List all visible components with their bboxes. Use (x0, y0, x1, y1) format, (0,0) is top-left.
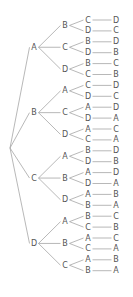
tree-edge (70, 238, 84, 243)
tree-edge (70, 200, 84, 205)
tree-leaf: D (113, 103, 119, 112)
tree-node-level3: C (85, 135, 91, 144)
tree-node-level3: D (85, 92, 91, 101)
tree-leaf: A (113, 201, 119, 210)
tree-leaf: C (113, 125, 119, 134)
tree-node-level3: B (85, 146, 91, 155)
tree-node-level1: B (31, 108, 37, 117)
tree-node-level3: A (85, 168, 91, 177)
tree-leaf: B (113, 70, 119, 79)
tree-edge (70, 260, 84, 265)
tree-edge (70, 243, 84, 248)
permutation-tree-diagram: CDDCBBDDBCBCCBDACDDCAADDACACCADBBDDBAADD… (0, 0, 133, 297)
tree-leaf: C (113, 212, 119, 221)
tree-edge (70, 42, 84, 47)
tree-node-level2: D (62, 130, 68, 139)
tree-node-level3: A (85, 103, 91, 112)
tree-edge (70, 113, 84, 118)
tree-node-level1: C (31, 174, 37, 183)
tree-edge (10, 113, 30, 148)
tree-leaf: A (113, 179, 119, 188)
tree-leaf: C (113, 59, 119, 68)
tree-node-level1: A (31, 43, 37, 52)
tree-leaf: A (113, 266, 119, 275)
tree-edge (39, 25, 61, 47)
tree-node-level3: D (85, 26, 91, 35)
tree-node-level2: C (62, 43, 68, 52)
tree-node-level3: A (85, 125, 91, 134)
tree-edge (70, 20, 84, 25)
tree-node-level3: B (85, 59, 91, 68)
tree-leaf: B (113, 255, 119, 264)
tree-edge (39, 91, 61, 113)
tree-edge (70, 25, 84, 30)
tree-node-level2: A (62, 217, 68, 226)
tree-node-level2: C (62, 108, 68, 117)
tree-node-level3: B (85, 201, 91, 210)
tree-leaf: C (113, 234, 119, 243)
tree-node-level3: D (85, 48, 91, 57)
tree-edge (70, 134, 84, 139)
tree-node-level3: D (85, 114, 91, 123)
tree-leaf: D (113, 168, 119, 177)
tree-node-level2: B (62, 239, 68, 248)
tree-edge (70, 107, 84, 112)
tree-edge (39, 178, 61, 200)
tree-node-level2: D (62, 65, 68, 74)
tree-edge (39, 222, 61, 244)
tree-node-level2: C (62, 261, 68, 270)
tree-leaf: A (113, 244, 119, 253)
tree-edge (70, 91, 84, 96)
tree-edge (70, 85, 84, 90)
tree-edge (70, 151, 84, 156)
tree-node-level3: B (85, 37, 91, 46)
tree-leaf: B (113, 48, 119, 57)
tree-leaf: D (113, 16, 119, 25)
tree-leaf: B (113, 223, 119, 232)
tree-node-level3: A (85, 190, 91, 199)
tree-edge (70, 216, 84, 221)
tree-edge (70, 173, 84, 178)
tree-edge (70, 194, 84, 199)
tree-node-level3: C (85, 16, 91, 25)
tree-leaf: A (113, 135, 119, 144)
tree-leaf: B (113, 190, 119, 199)
tree-node-level2: B (62, 174, 68, 183)
tree-leaf: D (113, 146, 119, 155)
tree-node-level2: D (62, 195, 68, 204)
tree-node-level3: A (85, 255, 91, 264)
tree-leaf: A (113, 114, 119, 123)
tree-leaf: D (113, 37, 119, 46)
tree-edge (70, 129, 84, 134)
tree-leaf: C (113, 92, 119, 101)
tree-node-level3: C (85, 223, 91, 232)
tree-node-level1: D (31, 239, 37, 248)
tree-node-level3: A (85, 234, 91, 243)
tree-node-level3: B (85, 266, 91, 275)
tree-edge (70, 178, 84, 183)
tree-node-level2: A (62, 152, 68, 161)
tree-node-level2: A (62, 86, 68, 95)
tree-node-level3: C (85, 81, 91, 90)
tree-node-level3: C (85, 70, 91, 79)
tree-node-level3: D (85, 179, 91, 188)
tree-edge (39, 113, 61, 135)
tree-node-level3: B (85, 212, 91, 221)
tree-leaf: D (113, 81, 119, 90)
tree-edge (39, 47, 61, 69)
tree-edge (10, 47, 30, 148)
tree-node-level2: B (62, 21, 68, 30)
tree-edge (39, 156, 61, 178)
tree-edge (39, 243, 61, 265)
tree-edge (70, 64, 84, 69)
tree-edge (70, 222, 84, 227)
tree-edge (10, 148, 30, 243)
tree-edge (70, 156, 84, 161)
tree-edge (70, 69, 84, 74)
tree-edge (70, 265, 84, 270)
tree-leaf: C (113, 26, 119, 35)
tree-node-level3: C (85, 244, 91, 253)
tree-leaf: B (113, 157, 119, 166)
tree-node-level3: D (85, 157, 91, 166)
tree-edge (70, 47, 84, 52)
